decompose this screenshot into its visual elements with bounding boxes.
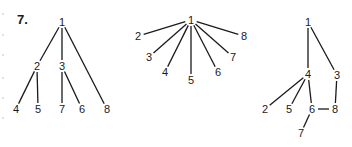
node-5: 5 [188,74,194,86]
node-2: 2 [135,30,141,42]
node-4: 4 [162,66,168,78]
node-4: 4 [13,103,19,115]
edge-1-3 [311,27,334,69]
edge-1-2 [144,22,186,35]
node-8: 8 [332,103,338,115]
tree-c: 14325687 [262,16,340,139]
node-7: 7 [230,51,236,63]
node-6: 6 [215,66,221,78]
edge-1-2 [40,27,59,61]
left-margin-dots [2,13,4,119]
node-8: 8 [241,30,247,42]
edge-2-4 [19,71,35,103]
node-3: 3 [59,60,65,72]
node-5: 5 [35,103,41,115]
figure-number: 7. [17,12,28,27]
edge-1-8 [65,27,104,103]
node-2: 2 [262,103,268,115]
node-4: 4 [305,68,311,80]
node-7: 7 [59,103,65,115]
edge-2-5 [37,72,38,103]
node-6: 6 [309,103,315,115]
node-6: 6 [79,103,85,115]
edge-3-8 [335,81,336,103]
node-1: 1 [59,16,65,28]
node-3: 3 [146,51,152,63]
node-5: 5 [286,103,292,115]
node-1: 1 [305,16,311,28]
tree-b: 12345678 [135,14,247,86]
edge-1-8 [197,22,239,35]
node-7: 7 [298,127,304,139]
edge-3-6 [65,71,80,103]
edge-4-6 [309,80,312,103]
node-3: 3 [334,69,340,81]
node-8: 8 [104,103,110,115]
edge-6-7 [304,115,310,128]
tree-diagrams: 7. 12345768 12345678 14325687 [0,0,352,147]
node-2: 2 [34,60,40,72]
edge-4-5 [292,79,305,103]
node-1: 1 [188,14,194,26]
tree-a: 12345768 [13,16,110,115]
